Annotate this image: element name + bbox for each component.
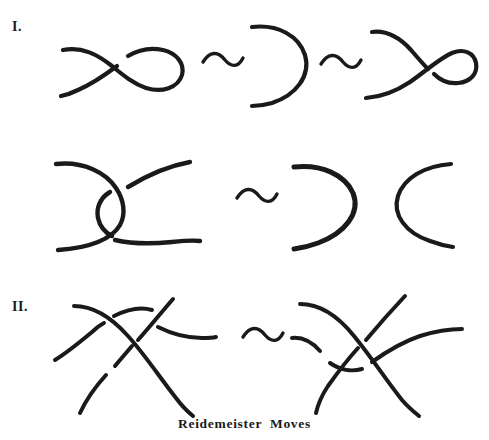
straight-arc-middle-panel — [252, 27, 306, 106]
row-label-one: I. — [12, 20, 22, 34]
strand-c-left-segment — [292, 338, 320, 351]
strand-c-left-segment — [55, 323, 104, 360]
twisted-loop-left-panel — [61, 49, 183, 96]
reidemeister-moves-figure: I. II. — [0, 0, 489, 440]
overlapping-arcs-left-panel — [56, 162, 200, 250]
move-row-one: I. — [0, 0, 489, 140]
strand-over-loop — [63, 49, 183, 90]
arc-under-upper-segment — [128, 162, 190, 187]
strand-b-upper-segment — [138, 299, 173, 340]
twisted-loop-right-panel — [366, 32, 476, 98]
strand-c-arch-segment — [114, 309, 152, 316]
move-one-diagram — [0, 0, 489, 140]
strand-c-right-segment — [372, 329, 462, 362]
triple-crossing-right-panel — [292, 296, 462, 416]
equivalence-tilde-icon — [243, 328, 283, 340]
strand-b-middle-segment — [115, 346, 132, 366]
strand-over-loop — [366, 51, 476, 98]
arc-under-lower-segment — [115, 240, 200, 243]
triple-crossing-left-panel — [55, 299, 216, 416]
arc-under-middle-segment — [98, 192, 113, 236]
move-row-two: II. — [0, 140, 489, 280]
strand-b-lower-segment — [316, 348, 358, 413]
strand-under-tail — [61, 66, 117, 96]
equivalence-tilde-icon — [237, 189, 277, 201]
equivalence-tilde-icon — [321, 55, 361, 67]
strand-a-upper-left-to-lower-right — [74, 306, 193, 416]
strand-b-lower-segment — [80, 375, 106, 413]
move-two-diagram — [0, 140, 489, 280]
arc-left-paren — [397, 164, 453, 247]
strand-b-upper-segment — [366, 296, 405, 340]
figure-caption: Reidemeister Moves — [0, 416, 489, 432]
move-row-three: III. — [0, 280, 489, 420]
plain-arc — [252, 27, 306, 106]
arc-right-paren — [294, 167, 355, 249]
move-three-diagram — [0, 280, 489, 420]
strand-c-right-segment — [158, 327, 216, 338]
strand-upper-under — [372, 32, 428, 69]
strand-a-upper-left-to-lower-right — [300, 304, 419, 416]
separated-arcs-right-panel — [294, 164, 453, 249]
equivalence-tilde-icon — [203, 53, 243, 65]
